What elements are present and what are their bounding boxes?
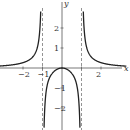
x-tick-label: −1 bbox=[38, 70, 50, 79]
y-tick-label: −1 bbox=[54, 84, 66, 93]
y-axis-label: y bbox=[63, 0, 69, 8]
function-graph: −2−1221−1−2 x y bbox=[0, 0, 130, 130]
x-axis-label: x bbox=[124, 64, 129, 73]
y-tick-label: −2 bbox=[54, 104, 66, 113]
y-tick-label: 2 bbox=[54, 24, 59, 33]
x-tick-label: −2 bbox=[18, 70, 30, 79]
plot-area: −2−1221−1−2 x y bbox=[0, 0, 130, 130]
y-tick-label: 1 bbox=[54, 44, 59, 53]
curve-branch bbox=[0, 12, 41, 67]
curve-branch bbox=[83, 12, 126, 67]
x-tick-label: 2 bbox=[96, 70, 101, 79]
